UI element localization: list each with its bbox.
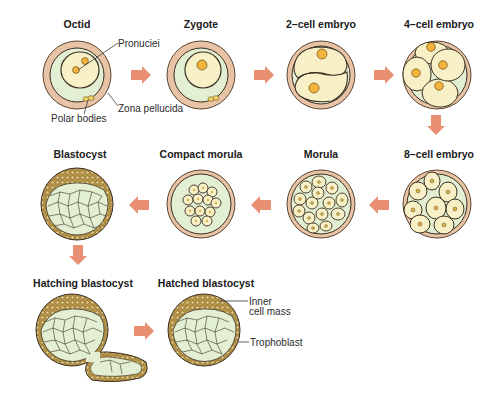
- arrow-left-3-icon: [129, 196, 149, 214]
- hatched-blastocyst-illustration: [168, 294, 249, 366]
- octid-illustration: [43, 41, 118, 114]
- four-cell-illustration: [403, 41, 471, 109]
- hatching-blastocyst-illustration: [36, 294, 147, 382]
- diagram-canvas: [0, 0, 494, 408]
- zygote-illustration: [167, 41, 235, 109]
- arrow-right-1-icon: [131, 66, 151, 84]
- morula-illustration: [287, 170, 355, 238]
- blastocyst-illustration: [41, 168, 113, 240]
- arrow-right-2-icon: [254, 66, 274, 84]
- compact-morula-illustration: [167, 170, 235, 238]
- arrow-down-2-icon: [69, 245, 87, 265]
- arrow-right-4-icon: [134, 322, 154, 340]
- eight-cell-illustration: [403, 170, 471, 238]
- arrow-down-1-icon: [427, 115, 445, 135]
- two-cell-illustration: [287, 41, 355, 109]
- arrow-left-2-icon: [251, 196, 271, 214]
- arrow-right-3-icon: [374, 66, 394, 84]
- arrow-left-1-icon: [369, 196, 389, 214]
